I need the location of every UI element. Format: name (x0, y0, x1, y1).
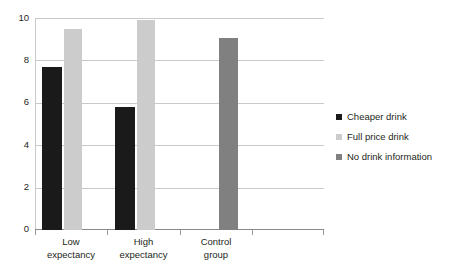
legend-label-cheaper-drink: Cheaper drink (347, 111, 407, 122)
bar-high-expectancy-full-price-drink (137, 20, 155, 230)
x-category-label-high-expectancy-line1: High (107, 236, 180, 249)
x-tick-1 (107, 230, 108, 235)
gridline-10 (35, 18, 324, 19)
plot-area (35, 18, 324, 230)
y-tick-label-4: 4 (24, 140, 29, 150)
x-category-label-low-expectancy-line2: expectancy (35, 249, 107, 262)
square-swatch-icon-full-price-drink (336, 134, 342, 140)
y-tick-label-0: 0 (24, 224, 29, 234)
x-tick-start (35, 230, 36, 235)
square-swatch-icon-cheaper-drink (336, 114, 342, 120)
x-tick-3 (252, 230, 253, 235)
y-tick-label-6: 6 (24, 97, 29, 107)
legend-item-full-price-drink: Full price drink (336, 128, 454, 145)
y-axis-labels: 10 8 6 4 2 0 (0, 0, 29, 273)
x-tick-2 (180, 230, 181, 235)
legend-item-no-drink-information: No drink information (336, 148, 454, 165)
x-category-label-control-group-line1: Control (180, 236, 252, 249)
x-category-label-low-expectancy: Low expectancy (35, 236, 107, 261)
x-category-label-high-expectancy-line2: expectancy (107, 249, 180, 262)
legend-item-cheaper-drink: Cheaper drink (336, 108, 454, 125)
bar-low-expectancy-cheaper-drink (42, 67, 62, 230)
y-tick-label-2: 2 (24, 182, 29, 192)
y-tick-label-10: 10 (18, 13, 29, 23)
bar-control-group-no-drink-information (219, 38, 238, 230)
legend-label-no-drink-information: No drink information (347, 151, 432, 162)
chart-legend: Cheaper drink Full price drink No drink … (336, 108, 454, 168)
x-tick-end (323, 230, 324, 235)
square-swatch-icon-no-drink-information (336, 154, 342, 160)
x-category-label-control-group-line2: group (180, 249, 252, 262)
bar-high-expectancy-cheaper-drink (115, 107, 135, 230)
bar-low-expectancy-full-price-drink (64, 29, 82, 230)
bar-chart: 10 8 6 4 2 0 Low expectancy High expect (0, 0, 456, 273)
y-tick-label-8: 8 (24, 55, 29, 65)
x-category-label-low-expectancy-line1: Low (35, 236, 107, 249)
x-category-label-control-group: Control group (180, 236, 252, 261)
x-category-label-high-expectancy: High expectancy (107, 236, 180, 261)
legend-label-full-price-drink: Full price drink (347, 131, 409, 142)
